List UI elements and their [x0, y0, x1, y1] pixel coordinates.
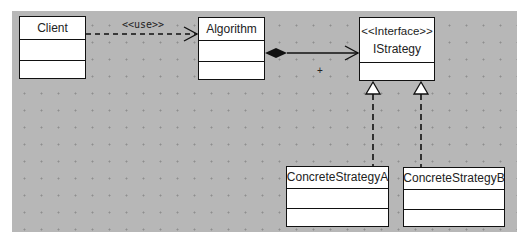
class-concrete-strategy-a[interactable]: ConcreteStrategyA: [286, 166, 389, 227]
class-header: ConcreteStrategyA: [287, 167, 388, 189]
class-client[interactable]: Client: [19, 16, 86, 79]
class-header: ConcreteStrategyB: [404, 168, 504, 190]
crosshair-cursor-icon: +: [317, 65, 323, 76]
attributes-compartment: [20, 40, 85, 61]
operations-compartment: [404, 210, 504, 226]
operations-compartment: [20, 61, 85, 78]
stereotype-label: <<Interface>>: [361, 24, 433, 38]
dependency-label: <<use>>: [122, 19, 164, 30]
class-istrategy[interactable]: <<Interface>> IStrategy: [359, 17, 435, 81]
class-name: ConcreteStrategyB: [403, 171, 504, 186]
class-concrete-strategy-b[interactable]: ConcreteStrategyB: [403, 167, 505, 227]
class-algorithm[interactable]: Algorithm: [198, 17, 265, 80]
class-name: Algorithm: [206, 22, 257, 37]
operations-compartment: [360, 63, 434, 80]
attributes-compartment: [287, 189, 388, 209]
class-name: IStrategy: [373, 42, 421, 57]
attributes-compartment: [404, 190, 504, 210]
class-header: Client: [20, 17, 85, 40]
class-name: ConcreteStrategyA: [287, 170, 388, 185]
class-name: Client: [37, 21, 68, 36]
class-header: <<Interface>> IStrategy: [360, 18, 434, 63]
operations-compartment: [287, 209, 388, 226]
class-header: Algorithm: [199, 18, 264, 41]
attributes-compartment: [199, 41, 264, 62]
operations-compartment: [199, 62, 264, 79]
